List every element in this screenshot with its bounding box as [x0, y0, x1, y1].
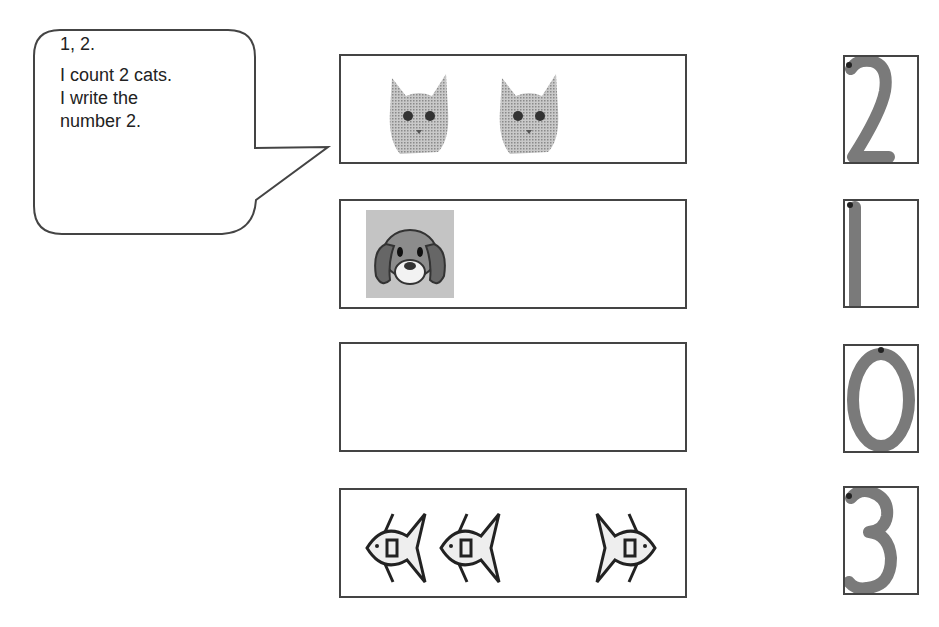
- picture-box-empty: [339, 342, 687, 452]
- counting-line: 1, 2.: [60, 33, 172, 56]
- number-box-2: [843, 55, 919, 164]
- fish-icon: [437, 508, 503, 588]
- number-box-3: [843, 486, 919, 595]
- cat-icon: [386, 70, 452, 156]
- picture-box-cats: [339, 54, 687, 164]
- picture-box-fish: [339, 488, 687, 598]
- speech-bubble-text: 1, 2. I count 2 cats. I write the number…: [60, 33, 172, 133]
- traced-number-0: [845, 346, 919, 453]
- traced-number-1: [845, 201, 919, 308]
- fish-icon: [363, 508, 429, 588]
- write-sentence-2: number 2.: [60, 110, 172, 133]
- count-sentence: I count 2 cats.: [60, 64, 172, 87]
- number-box-0: [843, 344, 919, 453]
- fish-icon: [593, 508, 659, 588]
- write-sentence-1: I write the: [60, 87, 172, 110]
- picture-box-dog: [339, 199, 687, 309]
- number-box-1: [843, 199, 919, 308]
- traced-number-2: [845, 57, 919, 164]
- cat-icon: [496, 70, 562, 156]
- dog-icon: [366, 210, 454, 298]
- traced-number-3: [845, 488, 919, 595]
